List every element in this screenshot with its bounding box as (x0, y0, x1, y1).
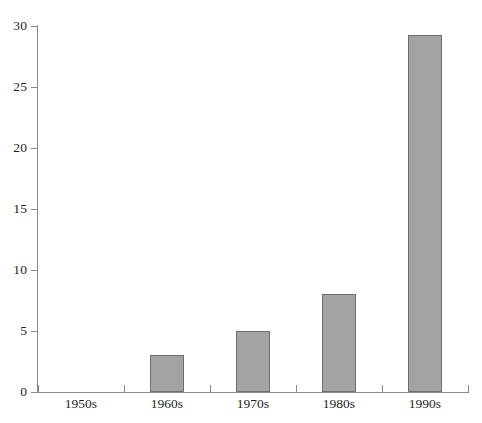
y-axis-tick-label: 15 (13, 202, 27, 216)
bar-1970s (236, 331, 270, 392)
y-axis-tick (31, 26, 38, 27)
y-axis-tick (31, 148, 38, 149)
x-axis-category-label: 1950s (41, 397, 121, 411)
plot-area (38, 26, 468, 392)
x-axis-category-label: 1980s (299, 397, 379, 411)
x-axis-line (37, 392, 469, 393)
x-axis-category-label: 1970s (213, 397, 293, 411)
x-axis-tick (468, 385, 469, 392)
y-axis-tick-label: 5 (20, 324, 27, 338)
y-axis-tick (31, 270, 38, 271)
bar-1990s (408, 35, 442, 392)
y-axis-tick-label: 10 (13, 263, 27, 277)
bar-1960s (150, 355, 184, 392)
x-axis-category-label: 1990s (385, 397, 465, 411)
y-axis-tick-label: 20 (13, 141, 27, 155)
bar-1980s (322, 294, 356, 392)
y-axis-tick (31, 331, 38, 332)
y-axis-tick (31, 87, 38, 88)
y-axis-tick (31, 209, 38, 210)
y-axis-tick-label: 30 (13, 19, 27, 33)
x-axis-category-label: 1960s (127, 397, 207, 411)
y-axis-tick-label: 25 (13, 80, 27, 94)
y-axis-tick (31, 392, 38, 393)
y-axis-tick-label: 0 (20, 385, 27, 399)
bar-chart: 051015202530 1950s1960s1970s1980s1990s (0, 0, 482, 423)
